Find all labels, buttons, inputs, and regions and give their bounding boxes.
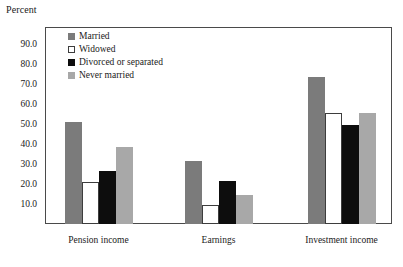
y-axis-tick-label: 30.0 [20, 159, 37, 169]
y-axis-tick-label: 60.0 [20, 99, 37, 109]
legend-swatch-icon [68, 59, 75, 66]
y-axis-tick-label: 50.0 [20, 119, 37, 129]
bar [116, 147, 133, 224]
y-axis-tick-label: 10.0 [20, 199, 37, 209]
x-axis: Pension incomeEarningsInvestment income [46, 228, 391, 250]
bar [308, 77, 325, 224]
legend-item: Married [68, 30, 218, 43]
chart-page: Percent 10.020.030.040.050.060.070.080.0… [0, 0, 403, 267]
x-axis-category-label: Earnings [202, 234, 236, 246]
y-axis-tick-label: 20.0 [20, 179, 37, 189]
legend-item-label: Divorced or separated [79, 57, 163, 68]
legend-item-label: Never married [79, 70, 134, 81]
legend-item: Widowed [68, 43, 218, 56]
legend-swatch-icon [68, 33, 75, 40]
legend-item: Never married [68, 69, 218, 82]
bar [185, 161, 202, 224]
bar [325, 113, 342, 224]
y-axis-title: Percent [6, 4, 37, 16]
bar [82, 182, 99, 224]
legend: MarriedWidowedDivorced or separatedNever… [68, 30, 218, 82]
legend-item-label: Widowed [79, 44, 116, 55]
y-axis-tick-label: 70.0 [20, 79, 37, 89]
x-axis-category-label: Investment income [305, 234, 378, 246]
legend-swatch-icon [68, 72, 75, 79]
x-axis-category-label: Pension income [68, 234, 128, 246]
y-axis-tick-label: 90.0 [20, 39, 37, 49]
bar [99, 171, 116, 224]
legend-item-label: Married [79, 31, 110, 42]
bar [359, 113, 376, 224]
y-axis: 10.020.030.040.050.060.070.080.090.0 [0, 27, 45, 224]
bar [219, 181, 236, 224]
bar [236, 195, 253, 224]
legend-item: Divorced or separated [68, 56, 218, 69]
y-axis-tick-label: 80.0 [20, 59, 37, 69]
bar [202, 205, 219, 224]
y-axis-tick-label: 40.0 [20, 139, 37, 149]
bar [65, 122, 82, 224]
legend-swatch-icon [68, 46, 75, 53]
bar [342, 125, 359, 224]
